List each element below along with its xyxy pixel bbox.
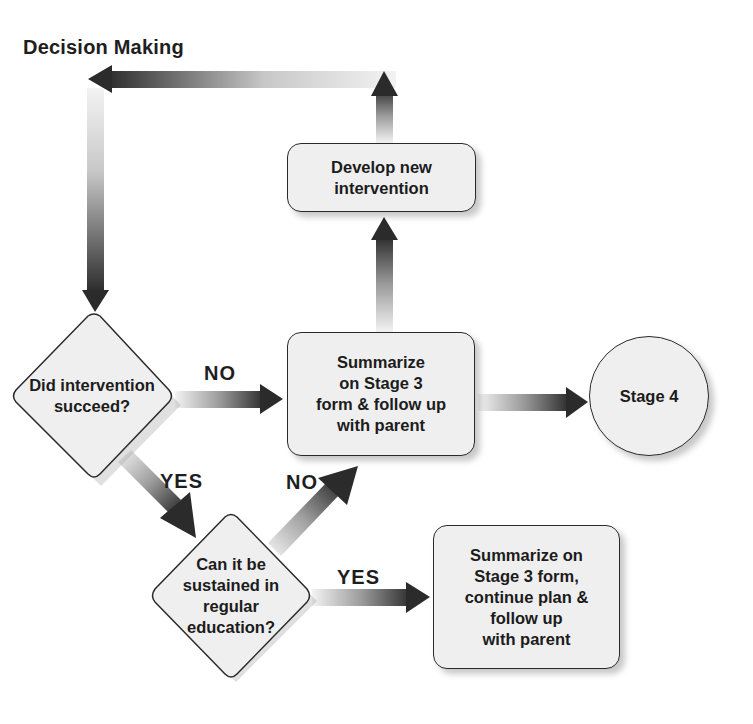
label-no-2: NO — [286, 471, 318, 494]
label-no-1: NO — [204, 362, 236, 385]
node-develop-new-intervention: Develop new intervention — [287, 143, 476, 212]
label-yes-1: YES — [160, 470, 203, 493]
decision-did-intervention-succeed: Did intervention succeed? — [8, 312, 176, 480]
decision-can-it-be-sustained: Can it be sustained in regular education… — [150, 513, 312, 679]
node-develop-label: Develop new intervention — [331, 157, 432, 199]
arrow-to-stage4 — [478, 387, 588, 418]
arrow-top-loop — [88, 65, 396, 93]
arrow-summarize-up — [371, 217, 398, 332]
node-summarize-continue-plan: Summarize on Stage 3 form, continue plan… — [433, 525, 620, 669]
label-yes-2: YES — [337, 566, 380, 589]
decision-1-label: Did intervention succeed? — [8, 312, 176, 480]
node-summarize-label: Summarize on Stage 3 form & follow up wi… — [316, 352, 446, 436]
arrow-left-down — [82, 88, 109, 312]
node-summarize-continue-label: Summarize on Stage 3 form, continue plan… — [465, 545, 589, 650]
node-stage-4: Stage 4 — [589, 336, 709, 456]
node-summarize-follow-up: Summarize on Stage 3 form & follow up wi… — [287, 332, 475, 456]
decision-2-label: Can it be sustained in regular education… — [150, 513, 312, 679]
stage-4-label: Stage 4 — [620, 386, 679, 407]
arrow-no-right — [175, 384, 283, 414]
